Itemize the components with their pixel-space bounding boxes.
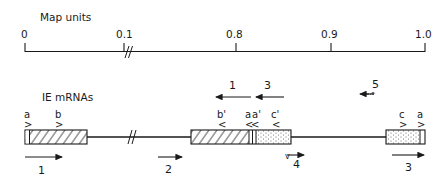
ie-mrnas-title: IE mRNAs (42, 91, 93, 103)
genome-map-diagram: Map units 0 0.1 0.8 0.9 1.0 IE mRNAs (0, 0, 448, 182)
transcript-label-3-top: 3 (264, 79, 271, 92)
transcript-label-1-top: 1 (229, 79, 236, 92)
site-labels: a > b > b' < a < a' < c' < c > a > (24, 109, 425, 130)
transcript-label-4: 4 (293, 158, 300, 171)
site-arrow-a-left: > (24, 119, 32, 130)
site-arrow-a-prime: < (251, 119, 259, 130)
site-arrow-a-right: > (417, 119, 425, 130)
left-repeat-box (25, 130, 87, 144)
site-arrow-c: > (399, 119, 407, 130)
transcript-label-1: 1 (38, 164, 45, 177)
map-units-title: Map units (40, 11, 91, 23)
site-arrow-c-prime: < (272, 119, 280, 130)
site-arrow-b: > (55, 119, 63, 130)
transcript-label-3-bottom: 3 (405, 161, 412, 174)
tick-label-0-8: 0.8 (226, 28, 243, 40)
transcript-label-2: 2 (165, 163, 172, 176)
tick-label-0-9: 0.9 (321, 28, 338, 40)
tick-label-0: 0 (21, 28, 28, 40)
site-arrow-b-prime: < (218, 119, 226, 130)
right-repeat-box (386, 130, 425, 144)
tick-label-0-1: 0.1 (116, 28, 133, 40)
transcript-label-5: 5 (372, 78, 379, 91)
v-marker-icon: v (285, 152, 290, 161)
center-repeat-box (191, 130, 291, 144)
map-scale-axis (25, 43, 425, 58)
caret-marker-icon: ^ (370, 91, 376, 99)
tick-label-1-0: 1.0 (415, 28, 432, 40)
